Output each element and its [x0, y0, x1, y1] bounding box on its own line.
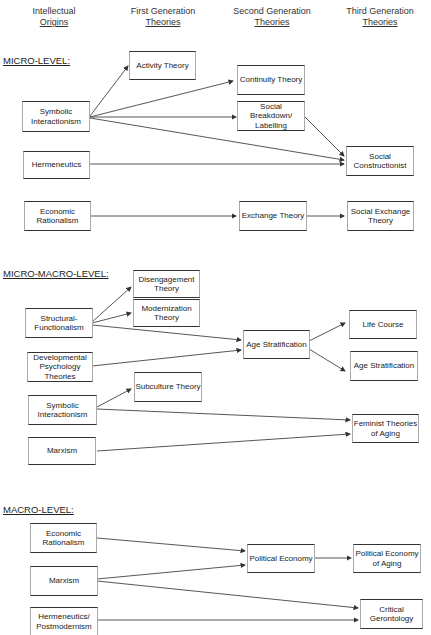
box-activity-theory: Activity Theory — [129, 51, 196, 80]
box-political-economy-of-aging: Political Economy of Aging — [353, 544, 421, 573]
header-line: Intellectual — [18, 6, 90, 17]
box-age-stratification-2nd: Age Stratification — [243, 330, 310, 359]
header-line: Third Generation — [335, 6, 425, 17]
header-line: First Generation — [118, 6, 208, 17]
box-subculture-theory: Subculture Theory — [134, 372, 202, 402]
header-second-generation: Second Generation Theories — [222, 6, 322, 28]
box-marxism-macro: Marxism — [30, 566, 98, 596]
box-disengagement-theory: Disengagement Theory — [133, 270, 200, 298]
box-economic-rationalism: Economic Rationalism — [24, 201, 91, 231]
box-exchange-theory: Exchange Theory — [239, 201, 307, 231]
box-hermeneutics-postmodernism: Hermeneutics/ Postmodernism — [30, 607, 98, 635]
box-feminist-theories: Feminist Theories of Aging — [352, 414, 419, 443]
micro-level-label: MICRO-LEVEL: — [3, 55, 70, 66]
box-social-constructionist: Social Constructionist — [346, 146, 414, 176]
box-economic-rationalism-macro: Economic Rationalism — [30, 523, 97, 553]
micro-macro-level-label: MICRO-MACRO-LEVEL: — [3, 268, 109, 279]
box-life-course: Life Course — [349, 310, 417, 339]
box-age-stratification-3rd: Age Stratification — [350, 351, 418, 381]
box-hermeneutics: Hermeneutics — [23, 151, 90, 179]
header-line: Theories — [222, 17, 322, 28]
box-social-exchange-theory: Social Exchange Theory — [347, 201, 414, 231]
box-symbolic-interactionism: Symbolic Interactionism — [22, 101, 90, 132]
header-line: Theories — [118, 17, 208, 28]
header-third-generation: Third Generation Theories — [335, 6, 425, 28]
header-first-generation: First Generation Theories — [118, 6, 208, 28]
box-developmental-psychology: Developmental Psychology Theories — [27, 352, 93, 382]
macro-level-label: MACRO-LEVEL: — [3, 504, 74, 515]
box-symbolic-interactionism-mm: Symbolic Interactionism — [28, 395, 97, 425]
header-line: Origins — [18, 17, 90, 28]
box-structural-functionalism: Structural-Functionalism — [25, 308, 93, 338]
header-intellectual-origins: Intellectual Origins — [18, 6, 90, 28]
box-marxism-mm: Marxism — [28, 437, 96, 465]
header-line: Second Generation — [222, 6, 322, 17]
box-modernization-theory: Modernization Theory — [133, 299, 200, 327]
box-critical-gerontology: Critical Gerontology — [360, 599, 423, 629]
header-line: Theories — [335, 17, 425, 28]
box-continuity-theory: Continuity Theory — [237, 65, 305, 95]
box-social-breakdown: Social Breakdown/ Labelling — [237, 101, 305, 131]
box-political-economy: Political Economy — [247, 544, 315, 573]
